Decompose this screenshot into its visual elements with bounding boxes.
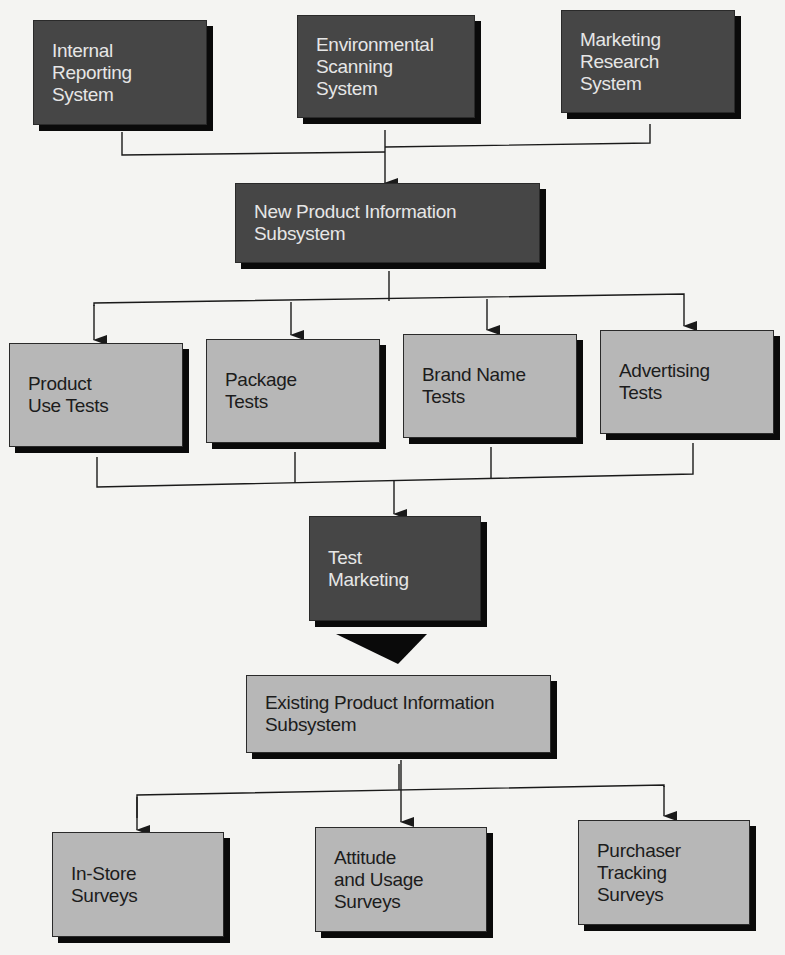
box-label-line: Existing Product Information	[265, 692, 550, 714]
box-label-line: Surveys	[597, 884, 749, 906]
box-label-line: Surveys	[71, 885, 223, 907]
box-label-line: Tests	[225, 391, 379, 413]
box-label-line: Surveys	[334, 891, 486, 913]
box-label-line: New Product Information	[254, 201, 539, 223]
box-label-line: Use Tests	[28, 395, 182, 417]
connector-marketing-research	[385, 124, 650, 147]
box-label-line: Test	[328, 547, 480, 569]
connector-tests-merge	[97, 443, 693, 487]
box-label-line: Product	[28, 373, 182, 395]
box-label-line: Subsystem	[254, 223, 539, 245]
box-label-line: Subsystem	[265, 714, 550, 736]
box-package-tests: Package Tests	[206, 339, 380, 443]
box-advertising-tests: Advertising Tests	[600, 330, 774, 434]
box-label-line: System	[580, 73, 734, 95]
box-label-line: Attitude	[334, 847, 486, 869]
box-label-line: Environmental	[316, 34, 474, 56]
box-label-line: Scanning	[316, 56, 474, 78]
box-label-line: Package	[225, 369, 379, 391]
large-down-arrow-icon	[336, 634, 427, 664]
box-label-line: Tests	[422, 386, 576, 408]
box-label-line: Internal	[52, 40, 206, 62]
box-new-product-information-subsystem: New Product Information Subsystem	[235, 183, 540, 263]
box-internal-reporting-system: Internal Reporting System	[33, 20, 207, 125]
box-in-store-surveys: In-Store Surveys	[52, 832, 224, 937]
box-label-line: Marketing	[580, 29, 734, 51]
box-label-line: Brand Name	[422, 364, 576, 386]
box-label-line: System	[52, 84, 206, 106]
box-test-marketing: Test Marketing	[309, 516, 481, 621]
box-label-line: System	[316, 78, 474, 100]
box-environmental-scanning-system: Environmental Scanning System	[297, 15, 475, 118]
connector-internal-reporting	[122, 132, 385, 155]
box-label-line: Purchaser	[597, 840, 749, 862]
box-purchaser-tracking-surveys: Purchaser Tracking Surveys	[578, 820, 750, 925]
box-label-line: Research	[580, 51, 734, 73]
box-label-line: Reporting	[52, 62, 206, 84]
connector-lines	[0, 0, 785, 955]
box-marketing-research-system: Marketing Research System	[561, 10, 735, 113]
box-label-line: Tracking	[597, 862, 749, 884]
box-label-line: Marketing	[328, 569, 480, 591]
box-product-use-tests: Product Use Tests	[9, 343, 183, 447]
box-existing-product-information-subsystem: Existing Product Information Subsystem	[246, 675, 551, 753]
box-attitude-and-usage-surveys: Attitude and Usage Surveys	[315, 827, 487, 932]
box-brand-name-tests: Brand Name Tests	[403, 334, 577, 438]
box-label-line: Tests	[619, 382, 773, 404]
box-label-line: Advertising	[619, 360, 773, 382]
box-label-line: and Usage	[334, 869, 486, 891]
marketing-information-flow-diagram: Internal Reporting System Environmental …	[0, 0, 785, 955]
box-label-line: In-Store	[71, 863, 223, 885]
